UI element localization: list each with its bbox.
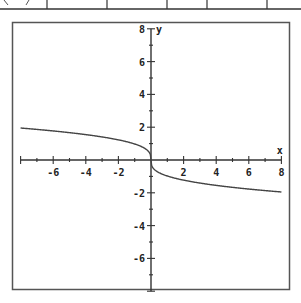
y-tick-label: 2 <box>139 122 145 133</box>
x-axis-label: x <box>277 145 283 156</box>
y-tick-label: 4 <box>139 89 145 100</box>
x-tick-label: -4 <box>80 167 92 178</box>
x-tick-label: 6 <box>246 167 252 178</box>
y-tick-label: -2 <box>133 188 145 199</box>
x-tick-label: 8 <box>278 167 284 178</box>
x-tick-label: -2 <box>112 167 124 178</box>
y-tick-label: 8 <box>139 24 145 35</box>
x-tick-label: 2 <box>181 167 187 178</box>
y-axis-label: y <box>156 24 162 35</box>
chart: -6-4-224688642-2-4-6 x y <box>0 0 301 303</box>
y-tick-label: -4 <box>133 221 145 232</box>
x-tick-label: -6 <box>47 167 59 178</box>
y-tick-label: -6 <box>133 253 145 264</box>
y-tick-label: 6 <box>139 57 145 68</box>
top-table-strip <box>0 0 301 9</box>
x-tick-label: 4 <box>213 167 219 178</box>
